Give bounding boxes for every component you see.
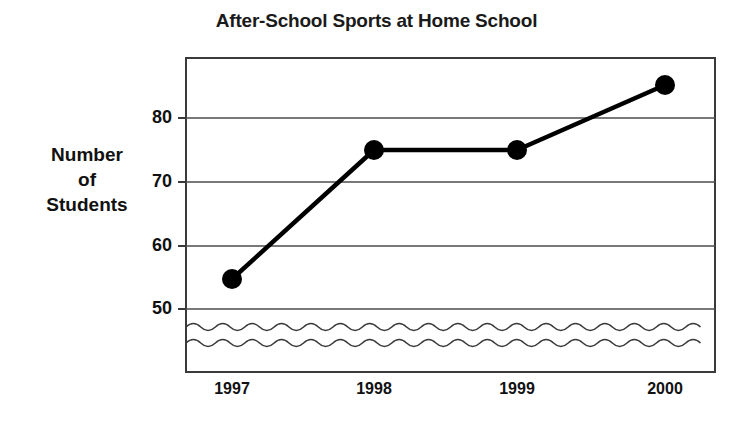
data-point-1999[interactable] xyxy=(507,140,527,160)
data-point-2000[interactable] xyxy=(655,75,675,95)
plot-area xyxy=(0,0,753,435)
x-tick-label-2000: 2000 xyxy=(625,380,705,398)
x-tick-label-1998: 1998 xyxy=(334,380,414,398)
line-chart: After-School Sports at Home School Numbe… xyxy=(0,0,753,435)
plot-frame xyxy=(186,58,715,372)
x-tick-label-1997: 1997 xyxy=(192,380,272,398)
data-point-1997[interactable] xyxy=(222,269,242,289)
data-point-1998[interactable] xyxy=(364,140,384,160)
x-tick-label-1999: 1999 xyxy=(477,380,557,398)
